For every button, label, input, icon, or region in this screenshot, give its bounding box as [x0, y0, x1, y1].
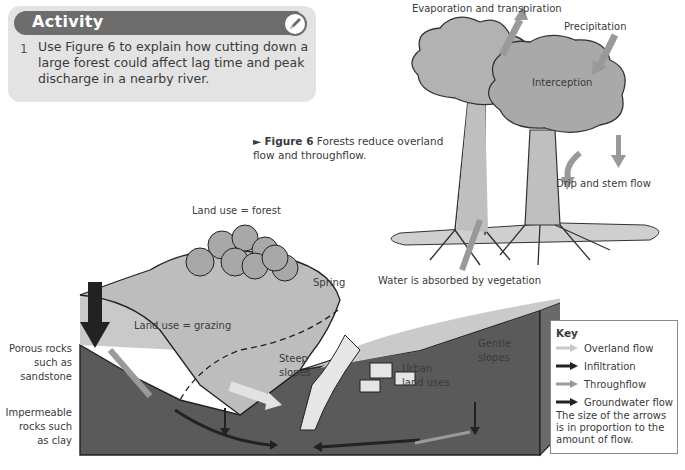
- label-spring: Spring: [313, 277, 345, 288]
- pencil-icon: [283, 12, 307, 36]
- dark-arrow-icon: [556, 362, 578, 370]
- key-title: Key: [556, 327, 578, 339]
- key-item-overland-flow: Overland flow: [556, 341, 653, 355]
- label-steep-slopes: Steep slopes: [279, 352, 311, 380]
- activity-title: Activity: [32, 12, 103, 31]
- label-land-use-grazing: Land use = grazing: [134, 320, 231, 331]
- dark-arrow-icon: [556, 398, 578, 406]
- figure-marker: ►: [253, 135, 261, 147]
- label-precipitation: Precipitation: [564, 21, 627, 32]
- label-urban-land-uses: Urban land uses: [402, 362, 450, 390]
- label-impermeable-rocks: Impermeable rocks such as clay: [0, 406, 72, 448]
- label-land-use-forest: Land use = forest: [192, 205, 281, 216]
- landscape-block-diagram: [0, 200, 560, 470]
- label-drip-stem-flow: Drip and stem flow: [556, 178, 651, 189]
- grey-arrow-icon: [556, 380, 578, 388]
- key-item-throughflow: Throughflow: [556, 377, 646, 391]
- label-evaporation: Evaporation and transpiration: [412, 3, 562, 14]
- key-note: The size of the arrows is in proportion …: [556, 410, 676, 446]
- label-porous-rocks: Porous rocks such as sandstone: [0, 342, 72, 384]
- key-item-infiltration: Infiltration: [556, 359, 636, 373]
- label-interception: Interception: [532, 77, 592, 88]
- key-item-groundwater-flow: Groundwater flow: [556, 395, 673, 409]
- question-text: Use Figure 6 to explain how cutting down…: [38, 39, 313, 87]
- light-arrow-icon: [556, 344, 578, 352]
- label-gentle-slopes: Gentle slopes: [478, 337, 511, 365]
- figure-label: Figure 6: [264, 135, 313, 147]
- question-number: 1: [20, 42, 28, 56]
